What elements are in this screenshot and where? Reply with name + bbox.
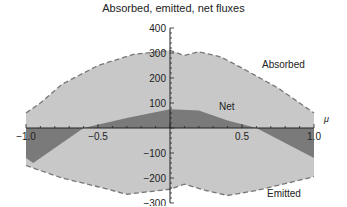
emitted-label: Emitted (267, 188, 301, 199)
y-tick-label: −200 (143, 173, 166, 184)
flux-chart: 400300200100−100−200−300−1.0−0.50.51.0μA… (0, 0, 347, 206)
absorbed-label: Absorbed (262, 59, 305, 70)
x-tick-label: −1.0 (16, 131, 36, 142)
y-tick-label: 100 (149, 98, 166, 109)
y-tick-label: −100 (143, 148, 166, 159)
net-label: Net (219, 101, 235, 112)
y-tick-label: 300 (149, 48, 166, 59)
x-tick-label: −0.5 (88, 131, 108, 142)
x-tick-label: 0.5 (235, 131, 249, 142)
x-axis-label: μ (323, 114, 329, 124)
y-tick-label: 200 (149, 73, 166, 84)
y-tick-label: −300 (143, 198, 166, 207)
y-tick-label: 400 (149, 23, 166, 34)
x-tick-label: 1.0 (307, 131, 321, 142)
